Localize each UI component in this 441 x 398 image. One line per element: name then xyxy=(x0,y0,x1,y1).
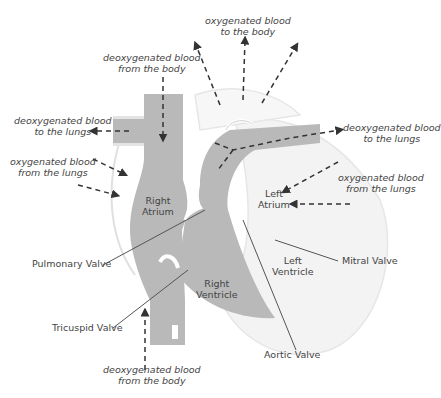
label-oxy-from-lungs-right: oxygenated blood from the lungs xyxy=(338,172,424,194)
label-oxy-to-body: oxygenated blood to the body xyxy=(205,15,291,37)
label-tricuspid-valve: Tricuspid Valve xyxy=(52,322,123,333)
label-line: Right xyxy=(196,278,238,289)
label-line: Atrium xyxy=(142,206,174,217)
label-line: from the body xyxy=(103,375,201,386)
label-line: to the body xyxy=(205,26,291,37)
label-line: to the lungs xyxy=(343,133,441,144)
label-line: oxygenated blood xyxy=(338,172,424,183)
label-deoxy-to-lungs-left: deoxygenated blood to the lungs xyxy=(14,115,112,137)
label-line: deoxygenated blood xyxy=(343,122,441,133)
label-aortic-valve: Aortic Valve xyxy=(264,349,320,360)
label-line: deoxygenated blood xyxy=(103,364,201,375)
right-atrium-outline xyxy=(112,140,135,275)
label-line: Ventricle xyxy=(272,266,314,277)
label-line: deoxygenated blood xyxy=(14,115,112,126)
label-right-ventricle: Right Ventricle xyxy=(196,278,238,300)
label-line: Right xyxy=(142,195,174,206)
label-line: deoxygenated blood xyxy=(103,52,201,63)
label-line: Left xyxy=(258,188,290,199)
label-line: oxygenated blood xyxy=(10,156,96,167)
label-pulmonary-valve: Pulmonary Valve xyxy=(32,258,111,269)
label-deoxy-from-body-bottom: deoxygenated blood from the body xyxy=(103,364,201,386)
label-line: from the lungs xyxy=(338,183,424,194)
label-line: from the lungs xyxy=(10,167,96,178)
label-line: Atrium xyxy=(258,199,290,210)
label-line: from the body xyxy=(103,63,201,74)
label-deoxy-from-body-top: deoxygenated blood from the body xyxy=(103,52,201,74)
label-left-atrium: Left Atrium xyxy=(258,188,290,210)
label-right-atrium: Right Atrium xyxy=(142,195,174,217)
label-line: oxygenated blood xyxy=(205,15,291,26)
label-oxy-from-lungs-left: oxygenated blood from the lungs xyxy=(10,156,96,178)
label-line: Left xyxy=(272,255,314,266)
label-line: Ventricle xyxy=(196,289,238,300)
label-left-ventricle: Left Ventricle xyxy=(272,255,314,277)
label-deoxy-to-lungs-right: deoxygenated blood to the lungs xyxy=(343,122,441,144)
label-mitral-valve: Mitral Valve xyxy=(342,255,398,266)
label-line: to the lungs xyxy=(14,126,112,137)
